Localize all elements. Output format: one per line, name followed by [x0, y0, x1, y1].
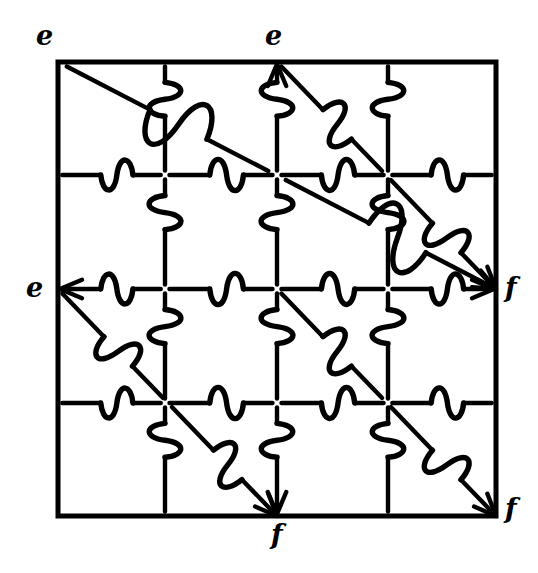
- edge-label-e-middle-left: e: [26, 274, 43, 301]
- figure-root: e e e f f f: [0, 0, 538, 573]
- edge-label-e-top-middle: e: [265, 22, 282, 49]
- edge-label-f-middle-right: f: [505, 274, 517, 301]
- edge-label-f-bottom-middle: f: [271, 521, 283, 548]
- edge-label-e-top-left: e: [36, 22, 53, 49]
- jigsaw-identification-figure: [0, 0, 538, 573]
- edge-label-f-bottom-right: f: [505, 495, 517, 522]
- jigsaw-tab-curves: [96, 82, 469, 487]
